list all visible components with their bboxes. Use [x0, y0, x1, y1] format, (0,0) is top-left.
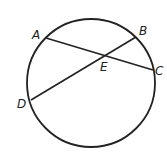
circle-chords-diagram: A B C D E — [0, 0, 167, 155]
label-a: A — [31, 28, 40, 42]
label-d: D — [17, 97, 26, 111]
label-e: E — [100, 60, 108, 74]
chord-bd — [31, 37, 136, 100]
label-b: B — [139, 24, 147, 38]
label-c: C — [155, 64, 164, 78]
